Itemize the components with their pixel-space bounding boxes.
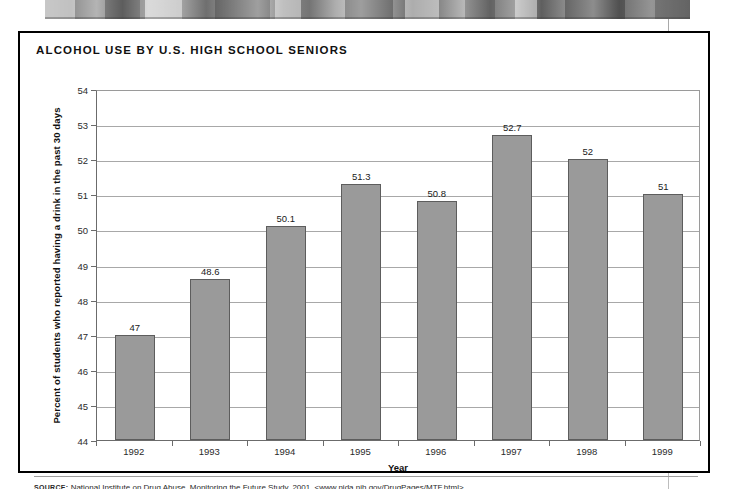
- y-axis-tick-label: 53: [66, 120, 88, 131]
- y-axis-tick-mark: [91, 230, 96, 231]
- y-axis-tick-label: 49: [66, 261, 88, 272]
- x-axis-tick-mark: [172, 441, 173, 446]
- source-label: Source:: [34, 484, 68, 489]
- chart-title: ALCOHOL USE BY U.S. HIGH SCHOOL SENIORS: [36, 44, 348, 56]
- bar-1997: [492, 135, 532, 440]
- bar-1999: [643, 194, 683, 440]
- bar-value-label-1997: 52.7: [482, 122, 542, 133]
- y-axis-tick-label: 50: [66, 225, 88, 236]
- x-axis-tick-label-1997: 1997: [481, 446, 541, 457]
- x-axis-tick-mark: [549, 441, 550, 446]
- x-axis-tick-mark: [398, 441, 399, 446]
- y-axis-tick-mark: [91, 266, 96, 267]
- gridline: [97, 302, 699, 303]
- y-axis-tick-mark: [91, 160, 96, 161]
- x-axis-tick-label-1998: 1998: [557, 446, 617, 457]
- bar-value-label-1998: 52: [558, 146, 618, 157]
- page-root: ALCOHOL USE BY U.S. HIGH SCHOOL SENIORS …: [0, 0, 733, 489]
- gridline: [97, 407, 699, 408]
- y-axis-tick-mark: [91, 125, 96, 126]
- y-axis-tick-label: 46: [66, 366, 88, 377]
- bar-1992: [115, 335, 155, 440]
- gridline: [97, 196, 699, 197]
- y-axis-title-text: Percent of students who reported having …: [51, 107, 62, 423]
- source-divider: [34, 476, 698, 477]
- y-axis-tick-label: 51: [66, 190, 88, 201]
- bar-value-label-1992: 47: [105, 322, 165, 333]
- gridline: [97, 337, 699, 338]
- y-axis-title: Percent of students who reported having …: [49, 90, 63, 441]
- bar-value-label-1993: 48.6: [180, 266, 240, 277]
- x-axis-tick-mark: [625, 441, 626, 446]
- gridline: [97, 161, 699, 162]
- source-text: National Institute on Drug Abuse, Monito…: [71, 483, 466, 489]
- x-axis-tick-mark: [247, 441, 248, 446]
- bar-1995: [341, 184, 381, 440]
- bar-value-label-1994: 50.1: [256, 213, 316, 224]
- bar-value-label-1996: 50.8: [407, 188, 467, 199]
- gridline: [97, 126, 699, 127]
- y-axis-tick-mark: [91, 195, 96, 196]
- y-axis-tick-label: 47: [66, 331, 88, 342]
- x-axis-tick-mark: [96, 441, 97, 446]
- x-axis-tick-label-1994: 1994: [255, 446, 315, 457]
- y-axis-tick-label: 45: [66, 401, 88, 412]
- bar-1994: [266, 226, 306, 440]
- y-axis-tick-label: 44: [66, 436, 88, 447]
- y-axis-tick-label: 54: [66, 85, 88, 96]
- y-axis-tick-label: 52: [66, 155, 88, 166]
- y-axis-tick-mark: [91, 336, 96, 337]
- x-axis-tick-label-1995: 1995: [330, 446, 390, 457]
- bar-1998: [568, 159, 608, 440]
- bar-value-label-1995: 51.3: [331, 171, 391, 182]
- x-axis-title: Year: [96, 462, 700, 473]
- bar-1996: [417, 201, 457, 440]
- gridline: [97, 231, 699, 232]
- chart-figure-frame: ALCOHOL USE BY U.S. HIGH SCHOOL SENIORS …: [18, 31, 710, 473]
- x-axis-tick-label-1996: 1996: [406, 446, 466, 457]
- source-note: Source: National Institute on Drug Abuse…: [34, 483, 694, 489]
- banner-bottom-edge: [45, 17, 690, 19]
- y-axis-tick-mark: [91, 406, 96, 407]
- y-axis-tick-mark: [91, 371, 96, 372]
- plot-area: 4748.650.151.350.852.75251: [96, 90, 700, 441]
- gridline: [97, 372, 699, 373]
- bar-value-label-1999: 51: [633, 181, 693, 192]
- y-axis-tick-mark: [91, 90, 96, 91]
- x-axis-tick-mark: [323, 441, 324, 446]
- x-axis-tick-mark: [474, 441, 475, 446]
- x-axis-tick-label-1993: 1993: [179, 446, 239, 457]
- y-axis-tick-label: 48: [66, 296, 88, 307]
- x-axis-tick-label-1992: 1992: [104, 446, 164, 457]
- y-axis-tick-mark: [91, 301, 96, 302]
- x-axis-tick-mark: [700, 441, 701, 446]
- bar-1993: [190, 279, 230, 440]
- x-axis-tick-label-1999: 1999: [632, 446, 692, 457]
